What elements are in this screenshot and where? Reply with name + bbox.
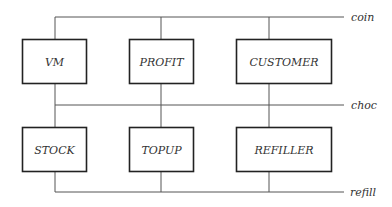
channel-label-choc: choc [351, 99, 377, 112]
process-label-profit: PROFIT [138, 56, 185, 69]
process-box-refiller: REFILLER [237, 128, 332, 172]
process-box-topup: TOPUP [130, 128, 194, 172]
process-box-stock: STOCK [23, 128, 87, 172]
process-label-stock: STOCK [34, 144, 75, 157]
channel-label-refill: refill [350, 186, 377, 199]
channel-label-coin: coin [351, 11, 374, 24]
process-diagram: VM PROFIT CUSTOMER STOCK TOPUP REFILLER … [0, 0, 392, 207]
process-label-customer: CUSTOMER [249, 56, 318, 69]
process-box-customer: CUSTOMER [237, 40, 332, 84]
process-box-vm: VM [23, 40, 87, 84]
process-box-profit: PROFIT [130, 40, 194, 84]
process-label-refiller: REFILLER [253, 144, 313, 157]
process-label-topup: TOPUP [141, 144, 182, 157]
process-label-vm: VM [45, 56, 65, 69]
